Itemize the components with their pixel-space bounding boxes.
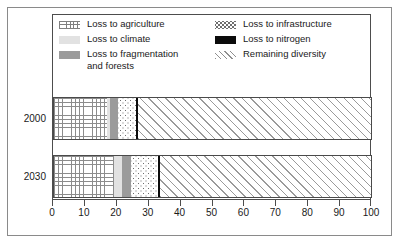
legend: Loss to agriculture Loss to climate Loss… xyxy=(53,15,372,85)
light-gray-swatch-icon xyxy=(59,36,80,44)
x-axis-tick xyxy=(116,200,117,206)
x-axis-ticklabel: 70 xyxy=(270,207,281,218)
x-axis-ticklabel: 30 xyxy=(142,207,153,218)
legend-column-left: Loss to agriculture Loss to climate Loss… xyxy=(59,19,209,78)
x-axis-ticklabel: 0 xyxy=(49,207,55,218)
dotted-swatch-icon xyxy=(215,21,236,29)
legend-item-remaining-diversity: Remaining diversity xyxy=(215,49,365,63)
bar-segment-remaining-diversity xyxy=(138,97,372,140)
x-axis-tick xyxy=(84,200,85,206)
x-axis-ticklabel: 80 xyxy=(302,207,313,218)
x-axis-ticklabel: 90 xyxy=(334,207,345,218)
legend-item-loss-to-infrastructure: Loss to infrastructure xyxy=(215,19,365,33)
x-axis-tick xyxy=(243,200,244,206)
legend-column-right: Loss to infrastructure Loss to nitrogen … xyxy=(215,19,365,64)
dark-gray-swatch-icon xyxy=(59,51,80,59)
x-axis-ticklabel: 60 xyxy=(238,207,249,218)
bar-segment-loss-to-agriculture xyxy=(53,155,114,198)
x-axis-ticklabel: 40 xyxy=(174,207,185,218)
bar-row-2030 xyxy=(53,155,372,198)
bar-segment-loss-to-infrastructure xyxy=(131,155,158,198)
legend-item-label: Loss to fragmentation and forests xyxy=(87,48,178,71)
legend-item-label: Remaining diversity xyxy=(243,48,326,60)
x-axis-tick xyxy=(339,200,340,206)
x-axis-tick xyxy=(52,200,53,206)
hatch-swatch-icon xyxy=(215,51,236,59)
x-axis-tick xyxy=(148,200,149,206)
legend-item-label: Loss to infrastructure xyxy=(243,18,332,30)
x-axis-ticklabels: 0102030405060708090100 xyxy=(52,207,371,223)
x-axis-ticklabel: 20 xyxy=(110,207,121,218)
legend-item-loss-to-climate: Loss to climate xyxy=(59,34,209,48)
black-swatch-icon xyxy=(215,36,236,44)
plot-area: Loss to agriculture Loss to climate Loss… xyxy=(52,14,371,200)
x-axis-tick xyxy=(212,200,213,206)
stacked-bar xyxy=(53,155,372,198)
y-axis-label-2000: 2000 xyxy=(14,113,46,124)
chart-figure: Loss to agriculture Loss to climate Loss… xyxy=(0,0,399,243)
stacked-bar xyxy=(53,97,372,140)
legend-item-loss-to-fragmentation-and-forests: Loss to fragmentation and forests xyxy=(59,49,209,77)
x-axis-tick xyxy=(275,200,276,206)
x-axis-tick xyxy=(180,200,181,206)
x-axis-ticklabel: 10 xyxy=(78,207,89,218)
bar-segment-loss-to-agriculture xyxy=(53,97,107,140)
y-axis-label-2030: 2030 xyxy=(14,171,46,182)
legend-item-label: Loss to nitrogen xyxy=(243,33,311,45)
bar-segment-loss-to-fragmentation-and-forests xyxy=(122,155,132,198)
bar-segment-remaining-diversity xyxy=(160,155,372,198)
bar-row-2000 xyxy=(53,97,372,140)
x-axis-tick xyxy=(307,200,308,206)
bar-segment-loss-to-infrastructure xyxy=(118,97,136,140)
grid-swatch-icon xyxy=(59,21,80,29)
legend-item-label: Loss to climate xyxy=(87,33,150,45)
legend-item-loss-to-nitrogen: Loss to nitrogen xyxy=(215,34,365,48)
x-axis-ticklabel: 50 xyxy=(206,207,217,218)
bar-segment-loss-to-fragmentation-and-forests xyxy=(110,97,118,140)
bar-segment-loss-to-climate xyxy=(114,155,122,198)
legend-item-loss-to-agriculture: Loss to agriculture xyxy=(59,19,209,33)
x-axis-ticklabel: 100 xyxy=(363,207,380,218)
x-axis-tick xyxy=(370,200,371,206)
legend-item-label: Loss to agriculture xyxy=(87,18,165,30)
